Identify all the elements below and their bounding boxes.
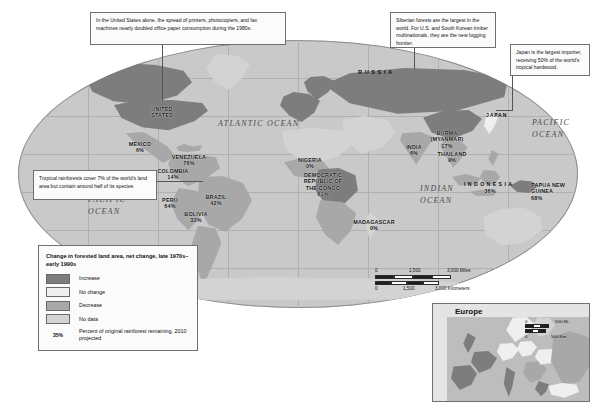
- scale-ticks-kilometers: 0 1,500 3,000 Kilometers: [375, 286, 487, 292]
- country-name: DEMOCRATIC REPUBLIC OF THE CONGO: [304, 172, 343, 191]
- country-percent: 76%: [168, 160, 210, 166]
- callout-japan-importer: Japan is the largest importer, receiving…: [510, 44, 590, 76]
- legend-row-percent-key: 35% Percent of original rainforest remai…: [46, 328, 190, 343]
- landmass-greenland: [206, 54, 250, 90]
- country-percent: 9%: [432, 157, 472, 163]
- landmass-alaska: [46, 68, 94, 94]
- legend-percent-value: 35%: [46, 332, 70, 338]
- legend-label-no-change: No change: [79, 289, 105, 296]
- ocean-label-text: INDIAN OCEAN: [420, 184, 454, 205]
- callout-rainforest-species: Tropical rainforests cover 7% of the wor…: [33, 170, 157, 200]
- country-label-dr-congo: DEMOCRATIC REPUBLIC OF THE CONGO 61%: [300, 172, 346, 198]
- country-name: PAPUA NEW GUINEA: [531, 182, 565, 194]
- legend-swatch-increase: [46, 274, 70, 284]
- legend-label-increase: Increase: [79, 275, 100, 282]
- country-percent: 36%: [476, 188, 504, 194]
- legend-row-no-data: No data: [46, 314, 190, 324]
- scale-tick-km-zero: 0: [375, 286, 378, 291]
- callout-usa-paper: In the United States alone, the spread o…: [90, 12, 286, 45]
- country-label-brazil: BRAZIL 42%: [199, 194, 233, 207]
- country-label-venezuela: VENEZUELA 76%: [168, 154, 210, 167]
- legend-row-decrease: Decrease: [46, 301, 190, 311]
- inset-tick-miles-zero: 0: [525, 319, 527, 324]
- country-percent: 0%: [350, 225, 398, 231]
- country-percent: 6%: [120, 147, 160, 153]
- callout-text: Siberian forests are the largest in the …: [396, 17, 488, 46]
- callout-text: Tropical rainforests cover 7% of the wor…: [39, 175, 147, 189]
- inset-tick-km-zero: 0: [525, 334, 527, 339]
- country-label-nigeria: NIGERIA 0%: [292, 157, 328, 170]
- legend-title: Change in forested land area, net change…: [46, 252, 190, 269]
- country-percent: 6%: [400, 150, 428, 156]
- country-percent: 17%: [425, 143, 469, 149]
- country-percent: 68%: [531, 195, 573, 201]
- inset-land-iberia: [451, 365, 477, 391]
- country-label-bolivia: BOLIVIA 33%: [179, 211, 213, 224]
- region-label-russia: RUSSIA: [358, 69, 395, 75]
- region-label-text: INDONESIA: [464, 181, 514, 187]
- map-screenshot: ATLANTIC OCEAN PACIFIC OCEAN PACIFIC OCE…: [0, 0, 595, 407]
- inset-scale-ticks-miles: 0 500 Mi.: [525, 319, 583, 324]
- legend-row-no-change: No change: [46, 287, 190, 297]
- region-label-text: RUSSIA: [358, 69, 395, 75]
- country-label-papua-new-guinea: PAPUA NEW GUINEA 68%: [531, 182, 573, 201]
- region-label-indonesia: INDONESIA: [464, 181, 514, 187]
- legend-row-increase: Increase: [46, 274, 190, 284]
- legend-swatch-no-change: [46, 287, 70, 297]
- region-label-text: JAPAN: [486, 112, 507, 118]
- callout-siberia-logging: Siberian forests are the largest in the …: [390, 12, 496, 48]
- callout-text: In the United States alone, the spread o…: [96, 17, 257, 31]
- ocean-label-text: PACIFIC OCEAN: [532, 118, 570, 139]
- callout-leader-usa: [162, 45, 163, 101]
- inset-land-poland: [517, 341, 537, 359]
- scale-tick-km-mid: 1,500: [403, 286, 415, 291]
- legend-percent-label: Percent of original rainforest remaining…: [79, 328, 190, 343]
- landmass-philippines: [488, 150, 500, 166]
- ocean-label-indian: INDIAN OCEAN: [420, 183, 462, 207]
- callout-leader-rainforest: [157, 181, 203, 182]
- country-percent: 14%: [152, 174, 194, 180]
- country-label-colombia: COLOMBIA 14%: [152, 168, 194, 181]
- scale-tick-miles-max: 3,000 Miles: [447, 268, 471, 273]
- callout-text: Japan is the largest importer, receiving…: [516, 49, 581, 70]
- callout-leader-japan: [512, 76, 513, 110]
- scale-tick-miles-mid: 1,500: [409, 268, 421, 273]
- inset-land-italy: [503, 367, 517, 397]
- legend-swatch-no-data: [46, 314, 70, 324]
- country-percent: 42%: [199, 200, 233, 206]
- ocean-label-pacific-east: PACIFIC OCEAN: [532, 117, 580, 141]
- inset-land-turkey: [547, 383, 579, 399]
- country-label-burma: BURMA (MYANMAR) 17%: [425, 130, 469, 149]
- scale-bar-group: 0 1,500 3,000 Miles 0 1,500 3,000 Kilome…: [375, 268, 487, 292]
- callout-leader-siberia: [414, 48, 415, 69]
- scale-bar-miles: [375, 274, 487, 279]
- legend-label-no-data: No data: [79, 316, 98, 323]
- scale-tick-km-max: 3,000 Kilometers: [435, 286, 469, 291]
- country-label-india: INDIA 6%: [400, 144, 428, 157]
- country-percent: 61%: [300, 191, 346, 197]
- country-label-mexico: MEXICO 6%: [120, 141, 160, 154]
- graticule-meridian: [508, 40, 509, 308]
- scale-ticks-miles: 0 1,500 3,000 Miles: [375, 268, 487, 274]
- country-label-united-states: UNITED STATES: [141, 106, 183, 119]
- inset-land-uk: [463, 333, 477, 353]
- scale-tick-miles-zero: 0: [375, 268, 378, 273]
- legend-label-decrease: Decrease: [79, 302, 102, 309]
- europe-inset: Europe 0 500 Mi.: [432, 303, 590, 402]
- inset-tick-km-max: 500 Km.: [551, 334, 567, 339]
- landmass-australia: [480, 208, 542, 248]
- country-percent: 0%: [292, 163, 328, 169]
- landmass-new-zealand: [548, 246, 560, 262]
- inset-scale-bar-kilometers: [525, 329, 583, 333]
- callout-leader-japan-horizontal: [496, 110, 513, 111]
- inset-land-balkans: [523, 361, 547, 385]
- country-label-indonesia-percent: 36%: [476, 188, 504, 194]
- ocean-label-text: ATLANTIC OCEAN: [218, 119, 299, 128]
- country-label-peru: PERU 64%: [153, 197, 187, 210]
- country-label-thailand: THAILAND 9%: [432, 151, 472, 164]
- country-percent: 33%: [179, 217, 213, 223]
- landmass-russia: [324, 68, 508, 120]
- inset-tick-miles-max: 500 Mi.: [555, 319, 569, 324]
- country-label-madagascar: MADAGASCAR 0%: [350, 219, 398, 232]
- ocean-label-atlantic: ATLANTIC OCEAN: [218, 119, 299, 128]
